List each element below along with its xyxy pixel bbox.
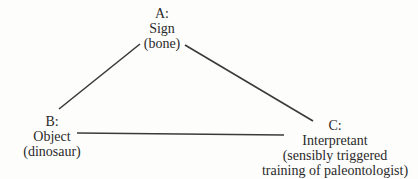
semiotic-triangle-diagram: A: Sign (bone) B: Object (dinosaur) C: I… [0,0,418,179]
node-c-label: Interpretant [255,133,415,148]
node-a-id: A: [128,6,196,21]
edge-sign-interpretant [185,45,313,121]
node-b-example: (dinosaur) [14,144,90,159]
node-c-example-line2: training of paleontologist) [255,163,415,178]
node-b-object: B: Object (dinosaur) [14,114,90,159]
node-b-id: B: [14,114,90,129]
node-a-sign: A: Sign (bone) [128,6,196,51]
node-c-interpretant: C: Interpretant (sensibly triggered trai… [255,118,415,178]
edge-sign-object [59,44,140,109]
node-a-label: Sign [128,21,196,36]
edge-object-interpretant [77,133,284,135]
node-a-example: (bone) [128,36,196,51]
node-c-example-line1: (sensibly triggered [255,148,415,163]
node-c-id: C: [255,118,415,133]
node-b-label: Object [14,129,90,144]
